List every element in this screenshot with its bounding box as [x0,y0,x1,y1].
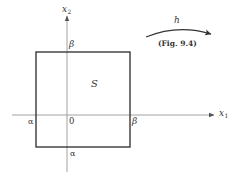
alpha-bottom-label: α [70,150,75,158]
beta-top-label: β [69,40,74,49]
x2-axis-label: x2 [62,5,71,14]
alpha-left-label: α [28,118,33,126]
figure-reference-label: (Fig. 9.4) [158,40,197,48]
diagram-canvas: x2 x1 β S α 0 β α h (Fig. 9.4) [0,0,236,183]
diagram-svg [0,0,236,183]
x1-axis-subscript: 1 [225,112,229,119]
origin-label: 0 [69,117,74,126]
square-region [36,52,130,147]
region-s-label: S [91,79,98,89]
x1-axis-label: x1 [219,109,228,118]
beta-right-label: β [132,117,137,126]
x1-axis-name: x [219,108,224,118]
x2-axis-name: x [62,4,67,14]
mapping-h-label: h [174,16,180,25]
mapping-arrow [146,30,211,37]
x2-axis-subscript: 2 [68,8,72,15]
